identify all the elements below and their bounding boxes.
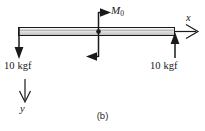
force-left-arrowhead <box>15 47 24 59</box>
figure-caption: (b) <box>0 110 205 121</box>
moment-application-point <box>96 29 101 34</box>
moment-bottom-arrowhead <box>86 52 97 60</box>
figure-free-body-diagram: 10 kgf 10 kgf x y M0 (b) <box>0 0 205 131</box>
label-moment-subscript: 0 <box>120 9 124 18</box>
axis-x <box>174 25 198 39</box>
label-moment: M0 <box>111 5 124 18</box>
moment-top-arrowhead <box>100 8 111 16</box>
axis-y <box>20 79 31 102</box>
label-force-right: 10 kgf <box>150 61 178 72</box>
label-moment-symbol: M <box>111 4 120 16</box>
label-axis-x: x <box>186 13 191 24</box>
label-force-left: 10 kgf <box>4 61 32 72</box>
